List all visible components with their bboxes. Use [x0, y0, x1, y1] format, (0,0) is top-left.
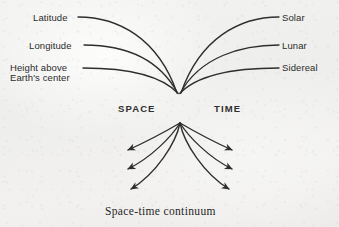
label-sidereal: Sidereal [282, 63, 318, 74]
arrow-out-right-1 [180, 123, 232, 150]
label-space: SPACE [118, 103, 156, 114]
label-solar: Solar [282, 13, 305, 24]
diverging-arrows-layer [0, 0, 339, 227]
label-earths-center: Earth's center [10, 73, 70, 84]
label-longitude: Longitude [29, 41, 72, 52]
label-latitude: Latitude [33, 13, 68, 24]
arrow-out-left-1 [128, 123, 180, 150]
figure-canvas: Latitude Longitude Height above Earth's … [0, 0, 339, 227]
figure-caption: Space-time continuum [105, 205, 216, 217]
label-lunar: Lunar [282, 41, 307, 52]
label-time: TIME [214, 103, 241, 114]
